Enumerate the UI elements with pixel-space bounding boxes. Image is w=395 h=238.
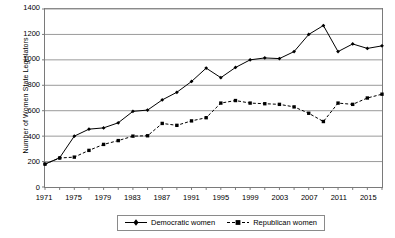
y-axis-tick-label: 800 [0, 81, 40, 89]
data-point [263, 56, 267, 60]
data-point [366, 96, 369, 99]
legend-label-democratic-women: Democratic women [151, 218, 215, 227]
data-point [248, 101, 251, 104]
series-line-republican-women [45, 94, 382, 164]
x-axis-tick-labels: 1971197519791983198719911995199920032007… [44, 193, 383, 207]
x-axis-tick-label: 2015 [348, 193, 388, 202]
data-point [161, 122, 164, 125]
data-point [102, 126, 106, 130]
dashed-line-square-marker-icon [227, 218, 249, 227]
legend-item-democratic-women[interactable]: Democratic women [125, 218, 215, 227]
data-point [292, 105, 295, 108]
data-point [365, 47, 369, 51]
data-point [380, 44, 384, 48]
data-point [307, 112, 310, 115]
data-point [380, 93, 383, 96]
y-axis-tick-label: 1200 [0, 30, 40, 38]
data-point [322, 120, 325, 123]
series-line-democratic-women [45, 26, 382, 165]
y-axis-tick-labels: 0200400600800100012001400 [0, 0, 40, 196]
data-point [278, 57, 282, 61]
legend-item-republican-women[interactable]: Republican women [227, 218, 317, 227]
y-axis-tick-label: 1400 [0, 4, 40, 12]
chart-legend: Democratic women Republican women [117, 215, 325, 231]
data-point [351, 42, 355, 46]
data-point [336, 50, 340, 54]
data-point [263, 102, 266, 105]
y-axis-tick-label: 600 [0, 107, 40, 115]
data-point [248, 58, 252, 62]
y-axis-tick-label: 0 [0, 184, 40, 192]
data-point [131, 134, 134, 137]
data-point [73, 155, 76, 158]
data-point [204, 116, 207, 119]
data-point [58, 156, 61, 159]
data-point [190, 119, 193, 122]
data-point [336, 101, 339, 104]
chart-container: Number of Women State Legislators 020040… [0, 0, 395, 238]
legend-label-republican-women: Republican women [253, 218, 317, 227]
data-point [117, 139, 120, 142]
data-point [175, 124, 178, 127]
series-layer [45, 9, 382, 187]
data-point [102, 143, 105, 146]
data-point [87, 127, 91, 131]
data-point [146, 134, 149, 137]
y-axis-tick-label: 200 [0, 158, 40, 166]
plot-area [44, 8, 383, 188]
data-point [219, 101, 222, 104]
y-axis-tick-label: 1000 [0, 55, 40, 63]
data-point [278, 103, 281, 106]
data-point [351, 103, 354, 106]
data-point [87, 149, 90, 152]
data-point [43, 162, 46, 165]
solid-line-diamond-marker-icon [125, 218, 147, 227]
data-point [234, 99, 237, 102]
y-axis-tick-label: 400 [0, 133, 40, 141]
